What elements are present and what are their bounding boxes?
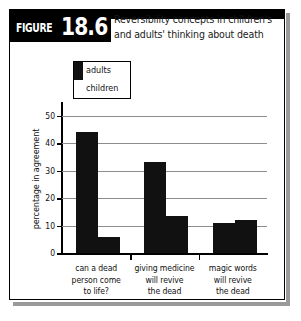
figure-label-word: FIGURE xyxy=(16,20,52,35)
bar-adults-1 xyxy=(144,162,166,253)
legend-label-adults: adults xyxy=(86,65,111,75)
chart-legend: adults children xyxy=(73,61,131,99)
bar-adults-2 xyxy=(213,223,235,253)
y-tick-label: 10 xyxy=(9,221,55,231)
figure-panel: FIGURE 18.6 Reversibility concepts in ch… xyxy=(0,0,301,321)
figure-label-number: 18.6 xyxy=(61,12,107,41)
gridline xyxy=(62,116,267,117)
x-category-label-line: the dead xyxy=(126,286,202,298)
figure-number-tab: FIGURE 18.6 xyxy=(9,9,111,42)
figure-title: Reversibility concepts in children's and… xyxy=(114,12,286,41)
frame-shadow-bottom xyxy=(13,302,290,306)
figure-title-line-2: and adults' thinking about death xyxy=(114,27,286,42)
y-tick-label: 0 xyxy=(9,248,55,258)
y-tick-label: 20 xyxy=(9,193,55,203)
x-category-label-line: giving medicine xyxy=(126,263,202,275)
y-axis-title: percentage in agreement xyxy=(31,104,41,254)
x-category-label-line: person come xyxy=(58,275,134,287)
legend-swatch-column xyxy=(74,62,83,98)
x-category-label-line: magic words xyxy=(195,263,271,275)
bar-children-2 xyxy=(235,220,257,253)
bar-children-0 xyxy=(98,237,120,253)
x-axis-group-separator xyxy=(130,254,132,260)
x-axis-group-separator xyxy=(199,254,201,260)
x-category-label-line: will revive xyxy=(126,275,202,287)
x-category-label-line: can a dead xyxy=(58,263,134,275)
x-category-label-1: giving medicinewill revivethe dead xyxy=(126,263,202,298)
plot-region xyxy=(62,102,267,253)
legend-swatch-adults xyxy=(74,62,83,80)
figure-title-line-1: Reversibility concepts in children's xyxy=(114,12,286,27)
legend-swatch-children xyxy=(74,80,83,98)
x-category-label-2: magic wordswill revivethe dead xyxy=(195,263,271,298)
y-tick-label: 50 xyxy=(9,111,55,121)
x-category-label-line: will revive xyxy=(195,275,271,287)
y-tick-label: 30 xyxy=(9,166,55,176)
x-axis-line xyxy=(61,253,268,255)
bar-adults-0 xyxy=(76,132,98,253)
legend-label-children: children xyxy=(86,83,118,93)
x-category-label-line: the dead xyxy=(195,286,271,298)
bar-children-1 xyxy=(166,216,188,253)
x-category-label-line: to life? xyxy=(58,286,134,298)
x-category-label-0: can a deadperson cometo life? xyxy=(58,263,134,298)
y-tick-label: 40 xyxy=(9,138,55,148)
chart-area: percentage in agreement 01020304050 can … xyxy=(9,44,285,300)
frame-shadow-right xyxy=(286,13,290,306)
